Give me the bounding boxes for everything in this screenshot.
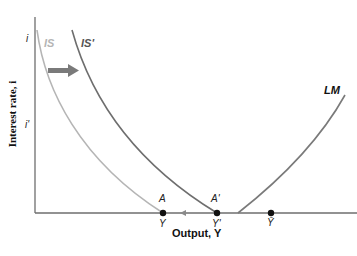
y-tick-i: i — [26, 33, 28, 44]
lm-curve — [238, 95, 345, 213]
point-a-prime — [214, 210, 220, 216]
is-lm-diagram: Interest rate, i i i' IS IS' LM A A' Y Y… — [0, 0, 357, 256]
x-tick-y: Y — [159, 218, 166, 229]
point-y-bar — [268, 210, 274, 216]
is-label: IS — [44, 37, 54, 49]
left-arrow-icon — [180, 210, 186, 216]
x-tick-y-bar: Ȳ — [267, 217, 274, 228]
y-tick-i-prime: i' — [25, 119, 29, 130]
is-prime-curve — [72, 30, 217, 213]
is-prime-label: IS' — [81, 37, 94, 49]
is-curve — [37, 30, 163, 213]
lm-label: LM — [324, 84, 340, 96]
point-a — [160, 210, 166, 216]
x-axis-label: Output, Y — [172, 227, 221, 239]
point-a-prime-label: A' — [211, 193, 220, 204]
point-a-label: A — [159, 193, 166, 204]
y-axis-label: Interest rate, i — [6, 64, 18, 164]
shift-arrow-icon — [48, 64, 79, 77]
